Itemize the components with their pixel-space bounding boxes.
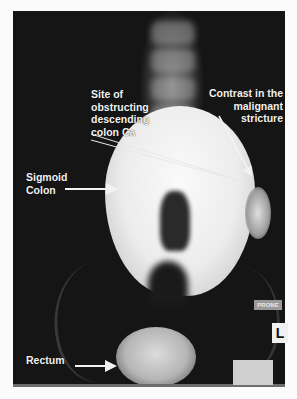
annotation-arrows bbox=[13, 11, 285, 387]
stricture-arrow bbox=[219, 116, 251, 175]
side-marker: L bbox=[272, 323, 288, 343]
film-label-box bbox=[233, 360, 273, 385]
prone-marker: PRONE bbox=[254, 300, 282, 310]
obstruction-arrow-line bbox=[91, 140, 248, 183]
obstruction-arrow-line bbox=[91, 134, 248, 183]
xray-image: Site of obstructing descending colon Ca … bbox=[13, 11, 285, 387]
